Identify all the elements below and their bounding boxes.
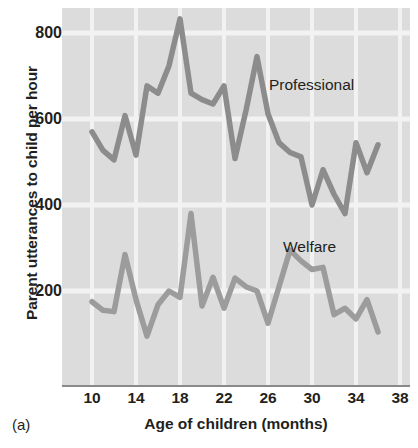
vertical-gridlines [92, 8, 400, 385]
x-tick-22: 22 [204, 390, 244, 406]
series-label-professional: Professional [269, 77, 354, 93]
y-tick-600: 600 [6, 111, 62, 127]
x-tick-38: 38 [380, 390, 418, 406]
x-tick-18: 18 [160, 390, 200, 406]
x-tick-34: 34 [336, 390, 376, 406]
x-axis-line [62, 385, 410, 387]
y-tick-400: 400 [6, 197, 62, 213]
chart-canvas [62, 8, 410, 385]
x-axis-ticks: 10 14 18 22 26 30 34 38 [0, 390, 418, 412]
x-tick-26: 26 [248, 390, 288, 406]
y-axis-ticks: 800 600 400 200 [0, 0, 62, 448]
x-tick-14: 14 [116, 390, 156, 406]
figure-panel-a: Parent utterances to child per hour 800 … [0, 0, 418, 448]
y-tick-200: 200 [6, 283, 62, 299]
x-axis-title: Age of children (months) [62, 415, 410, 433]
x-tick-30: 30 [292, 390, 332, 406]
series-label-welfare: Welfare [283, 239, 336, 255]
x-tick-10: 10 [72, 390, 112, 406]
panel-tag: (a) [12, 416, 30, 433]
plot-area [62, 8, 410, 385]
y-tick-800: 800 [6, 25, 62, 41]
